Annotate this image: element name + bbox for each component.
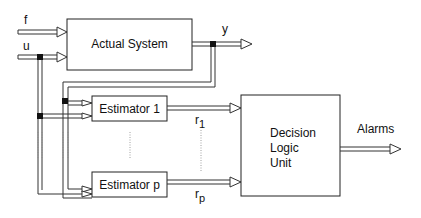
diagram-canvas: f u Actual System y Estimator 1 — [0, 0, 421, 218]
estp-u-arrowhead — [82, 191, 92, 197]
rp-label: rp — [195, 187, 205, 204]
est1-y-arrowhead — [82, 100, 92, 106]
u-branch-junction — [37, 113, 43, 119]
ellipsis-dots — [38, 130, 201, 172]
u-junction — [37, 54, 43, 60]
alarms-output-arrow — [340, 144, 401, 154]
estimator-p-label: Estimator p — [99, 178, 160, 192]
r1-residual-arrow — [167, 103, 241, 113]
rp-residual-arrow — [167, 177, 241, 187]
y-branch-junction — [62, 98, 68, 104]
est1-u-arrowhead — [82, 113, 92, 119]
decision-label-line3: Unit — [270, 156, 292, 170]
r1-label: r1 — [195, 113, 205, 130]
y-output-arrow — [192, 39, 252, 49]
estimator-1-label: Estimator 1 — [99, 102, 160, 116]
u-branch-lines — [38, 59, 82, 194]
alarms-label: Alarms — [357, 122, 394, 136]
actual-system-label: Actual System — [91, 37, 168, 51]
y-junction — [210, 41, 216, 47]
decision-label-line2: Logic — [270, 141, 299, 155]
y-label: y — [222, 22, 228, 36]
f-input-arrow — [18, 27, 67, 37]
f-label: f — [24, 13, 28, 27]
u-label: u — [23, 39, 30, 53]
decision-label-line1: Decision — [270, 126, 316, 140]
